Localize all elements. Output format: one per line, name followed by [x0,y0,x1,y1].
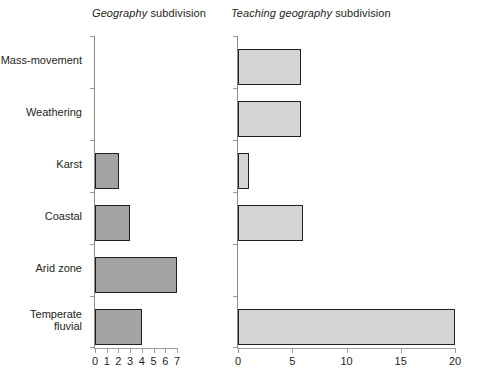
y-axis-line-left [94,36,95,348]
chart-title-left-emphasis: Geography [92,7,147,19]
y-tick-left [90,296,94,297]
bar-karst-left [95,153,119,189]
plot-area-left: 0 1 2 3 4 5 6 7 [95,36,220,348]
y-tick-left [90,88,94,89]
figure-canvas: Geography subdivision Teaching geography… [0,0,485,380]
x-tick-left [130,348,131,353]
x-tick-right [455,348,456,353]
category-label-mass-movement: Mass-movement [1,54,82,66]
y-tick-left [90,192,94,193]
x-tick-label-right-15: 15 [395,355,407,367]
x-tick-left [165,348,166,353]
x-tick-left [154,348,155,353]
x-tick-left [142,348,143,353]
bar-temperate-fluvial-right [238,309,455,345]
x-tick-left [107,348,108,353]
bar-coastal-left [95,205,130,241]
y-tick-left [90,244,94,245]
x-tick-right [347,348,348,353]
y-tick-right [233,192,237,193]
chart-panel-geography: 0 1 2 3 4 5 6 7 [95,36,220,348]
x-tick-label-left-4: 4 [139,355,145,367]
chart-title-right: Teaching geography subdivision [231,7,391,19]
plot-area-right: 0 5 10 15 20 [238,36,456,348]
x-tick-left [95,348,96,353]
chart-panel-teaching-geography: 0 5 10 15 20 [238,36,456,348]
bar-weathering-right [238,101,301,137]
x-tick-label-right-0: 0 [235,355,241,367]
x-tick-label-left-2: 2 [115,355,121,367]
y-tick-right [233,296,237,297]
category-label-weathering: Weathering [26,106,82,118]
y-tick-right [233,88,237,89]
y-tick-left [90,140,94,141]
x-tick-left [118,348,119,353]
x-tick-label-right-5: 5 [289,355,295,367]
category-label-arid-zone: Arid zone [36,262,82,274]
bar-temperate-fluvial-left [95,309,142,345]
category-label-temperate-fluvial: Temperate fluvial [30,308,82,332]
bar-karst-right [238,153,249,189]
x-tick-right [238,348,239,353]
x-tick-label-left-1: 1 [104,355,110,367]
x-tick-label-right-20: 20 [449,355,461,367]
y-tick-left [90,36,94,37]
bar-mass-movement-right [238,49,301,85]
y-tick-right [233,36,237,37]
x-tick-label-left-5: 5 [151,355,157,367]
x-tick-right [292,348,293,353]
y-tick-right [233,140,237,141]
chart-title-right-rest: subdivision [332,7,391,19]
x-tick-label-left-3: 3 [127,355,133,367]
x-tick-left [177,348,178,353]
category-label-karst: Karst [56,158,82,170]
bar-arid-zone-left [95,257,177,293]
category-label-coastal: Coastal [45,210,82,222]
x-tick-right [401,348,402,353]
x-tick-label-left-0: 0 [92,355,98,367]
x-tick-label-left-6: 6 [162,355,168,367]
chart-title-left: Geography subdivision [92,7,206,19]
chart-title-right-emphasis: Teaching geography [231,7,332,19]
x-tick-label-right-10: 10 [340,355,352,367]
y-tick-right [233,244,237,245]
chart-title-left-rest: subdivision [147,7,206,19]
bar-coastal-right [238,205,303,241]
category-axis-labels: Mass-movement Weathering Karst Coastal A… [0,36,88,348]
x-tick-label-left-7: 7 [174,355,180,367]
